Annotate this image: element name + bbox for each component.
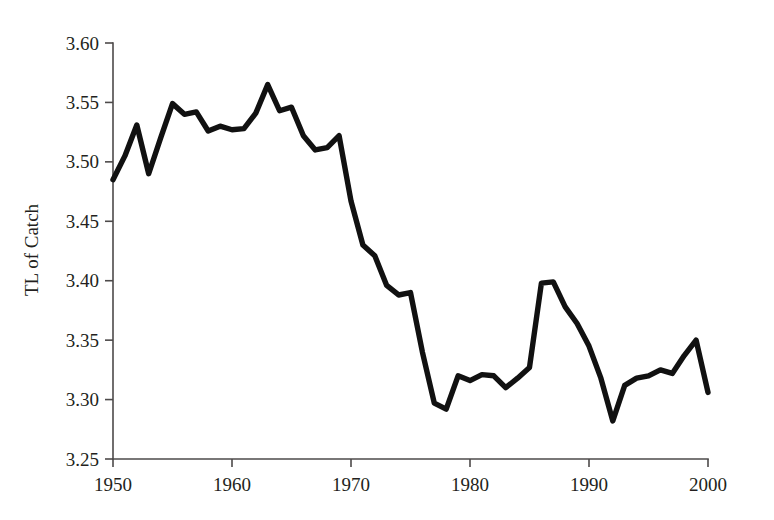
y-tick-label: 3.30 (66, 389, 99, 410)
y-axis-title: TL of Catch (21, 203, 42, 296)
line-chart: 3.253.303.353.403.453.503.553.6019501960… (0, 0, 774, 520)
figure-container: 3.253.303.353.403.453.503.553.6019501960… (0, 0, 774, 520)
y-tick-label: 3.40 (66, 270, 99, 291)
y-tick-label: 3.60 (66, 33, 99, 54)
y-tick-label: 3.55 (66, 92, 99, 113)
x-tick-label: 1980 (451, 474, 489, 495)
x-tick-label: 1950 (94, 474, 132, 495)
y-tick-label: 3.50 (66, 151, 99, 172)
data-series (113, 85, 708, 421)
y-tick-label: 3.35 (66, 330, 99, 351)
y-tick-label: 3.45 (66, 211, 99, 232)
x-tick-label: 2000 (689, 474, 727, 495)
data-line-1 (113, 85, 708, 421)
x-tick-label: 1960 (213, 474, 251, 495)
x-tick-label: 1970 (332, 474, 370, 495)
y-tick-label: 3.25 (66, 449, 99, 470)
tick-labels: 3.253.303.353.403.453.503.553.6019501960… (66, 33, 727, 496)
x-tick-label: 1990 (570, 474, 608, 495)
